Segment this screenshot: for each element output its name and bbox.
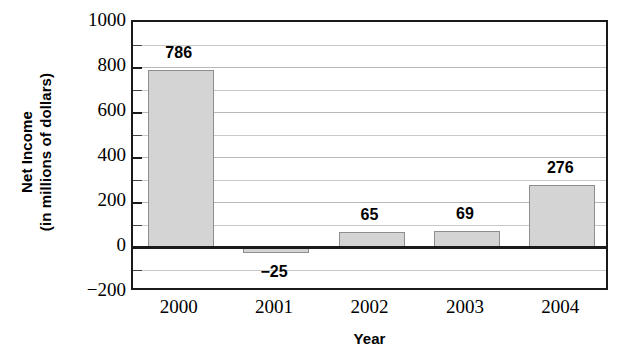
y-axis-tick [133, 45, 142, 46]
y-axis-tick-label: −200 [64, 279, 126, 301]
y-axis-title-line2: (in millions of dollars) [36, 73, 55, 231]
bar-chart: Net Income (in millions of dollars) 1000… [0, 0, 623, 363]
bar-value-label-2001: −25 [261, 263, 288, 281]
x-axis-tick-label-2002: 2002 [351, 296, 389, 318]
x-axis-tick-label-2003: 2003 [446, 296, 484, 318]
gridline [133, 270, 606, 271]
y-axis-tick [133, 270, 142, 271]
y-axis-tick [133, 112, 142, 114]
y-axis-tick-label: 400 [64, 144, 126, 166]
bar-2003 [434, 231, 500, 247]
gridline [133, 67, 606, 68]
bar-2002 [339, 232, 405, 247]
y-axis-tick-label: 800 [64, 54, 126, 76]
y-axis-title-line1: Net Income [17, 111, 36, 193]
x-axis-tick-label-2001: 2001 [255, 296, 293, 318]
bar-value-label-2004: 276 [547, 159, 574, 177]
bar-2000 [148, 70, 214, 247]
y-axis-tick-label: 1000 [64, 9, 126, 31]
plot-inner [133, 22, 606, 288]
y-axis-tick [133, 225, 142, 226]
y-axis-tick [133, 90, 142, 91]
y-axis-title: Net Income (in millions of dollars) [14, 22, 58, 282]
x-axis-tick-label-2004: 2004 [541, 296, 579, 318]
y-axis-tick [133, 180, 142, 181]
y-axis-tick [133, 135, 142, 136]
bar-value-label-2003: 69 [456, 205, 474, 223]
zero-line [133, 246, 606, 249]
plot-area [131, 20, 608, 290]
x-axis-title: Year [131, 330, 608, 347]
y-axis-tick [133, 202, 142, 204]
bar-2004 [529, 185, 595, 247]
bar-value-label-2000: 786 [165, 44, 192, 62]
y-axis-tick [133, 67, 142, 69]
y-axis-tick-label: 0 [64, 234, 126, 256]
bar-value-label-2002: 65 [361, 206, 379, 224]
y-axis-tick-label: 600 [64, 99, 126, 121]
y-axis-tick-label: 200 [64, 189, 126, 211]
x-axis-tick-label-2000: 2000 [160, 296, 198, 318]
y-axis-tick [133, 157, 142, 159]
gridline [133, 45, 606, 46]
y-axis-tick-labels: 10008006004002000−200 [60, 20, 126, 290]
